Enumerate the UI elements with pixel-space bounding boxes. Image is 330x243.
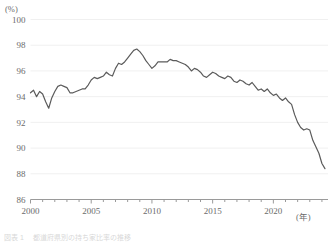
- y-tick-label: 92: [17, 118, 26, 128]
- x-axis-tick-labels: 20002005201020152020: [22, 206, 283, 216]
- source-note: 図表 1 都道府県別の持ち家比率の推移: [4, 233, 326, 243]
- y-tick-label: 86: [17, 195, 27, 205]
- y-tick-label: 96: [17, 66, 27, 76]
- line-chart-svg: 86889092949698100 20002005201020152020: [0, 0, 330, 243]
- y-tick-label: 88: [17, 169, 27, 179]
- x-axis: [31, 200, 329, 204]
- x-tick-label: 2005: [82, 206, 101, 216]
- x-tick-label: 2010: [143, 206, 162, 216]
- y-tick-label: 100: [12, 15, 26, 25]
- y-tick-label: 94: [17, 92, 27, 102]
- y-tick-label: 90: [17, 143, 27, 153]
- y-tick-label: 98: [17, 40, 27, 50]
- figure-container: (%) (年) 86889092949698100 20002005201020…: [0, 0, 330, 243]
- gridlines: [31, 20, 329, 174]
- x-tick-label: 2000: [22, 206, 41, 216]
- x-tick-label: 2015: [204, 206, 223, 216]
- y-axis-tick-labels: 86889092949698100: [12, 15, 26, 205]
- x-tick-label: 2020: [264, 206, 283, 216]
- data-series-line: [31, 49, 325, 169]
- plot-area: 86889092949698100 20002005201020152020: [0, 0, 330, 243]
